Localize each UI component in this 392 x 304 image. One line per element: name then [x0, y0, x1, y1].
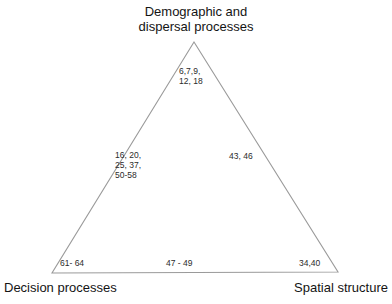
vertex-label-bottom-left: Decision processes: [4, 280, 117, 295]
triangle-outline: [0, 0, 392, 304]
vertex-label-top: Demographic and dispersal processes: [0, 4, 392, 34]
region-label-bottom-center: 47 - 49: [166, 258, 192, 268]
vertex-label-bottom-right: Spatial structure: [294, 280, 388, 295]
region-label-bottom-left: 61- 64: [60, 258, 84, 268]
ternary-diagram-figure: Demographic and dispersal processes Deci…: [0, 0, 392, 304]
region-label-top: 6,7,9, 12, 18: [179, 66, 203, 86]
region-label-bottom-right: 34,40: [299, 258, 320, 268]
vertex-label-top-line2: dispersal processes: [139, 19, 254, 34]
region-label-left: 16, 20, 25, 37, 50-58: [115, 150, 141, 180]
vertex-label-top-line1: Demographic and: [145, 4, 248, 19]
region-label-right: 43, 46: [229, 151, 253, 161]
